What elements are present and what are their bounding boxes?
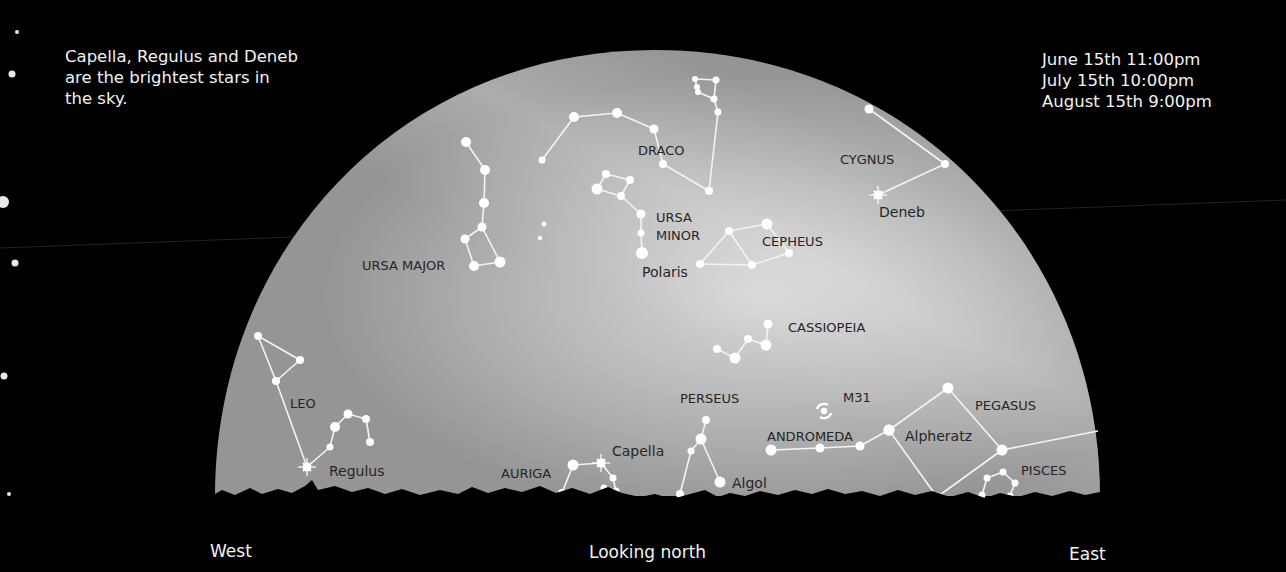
star-icon: [725, 227, 733, 235]
star-icon: [362, 415, 370, 423]
direction-west: West: [210, 541, 252, 561]
star-icon: [330, 422, 340, 432]
star-icon: [865, 105, 874, 114]
star-icon: [695, 89, 701, 95]
star-icon: [696, 260, 704, 268]
star-icon: [568, 460, 579, 471]
star-icon: [12, 260, 19, 267]
star-icon: [9, 71, 16, 78]
star-icon: [366, 438, 374, 446]
constellation-label-pisces: PISCES: [1021, 463, 1066, 478]
star-icon: [637, 210, 646, 219]
star-icon: [748, 261, 756, 269]
constellation-label-draco: DRACO: [638, 143, 685, 158]
star-icon: [592, 184, 603, 195]
star-icon: [478, 223, 487, 232]
star-icon: [764, 320, 773, 329]
time-line: July 15th 10:00pm: [1042, 70, 1212, 91]
star-icon: [272, 377, 280, 385]
star-icon: [479, 198, 489, 208]
star-icon: [602, 170, 610, 178]
star-icon: [694, 84, 700, 90]
direction-looking-north: Looking north: [589, 542, 706, 562]
note-line: Capella, Regulus and Deneb: [65, 46, 298, 67]
star-icon: [15, 30, 19, 34]
star-icon: [713, 345, 721, 353]
star-icon: [7, 492, 11, 496]
note-line: are the brightest stars in: [65, 67, 298, 88]
star-icon: [344, 410, 353, 419]
constellation-label-ursa-minor: URSA: [656, 210, 692, 225]
constellation-label-pegasus: PEGASUS: [975, 398, 1036, 413]
constellation-label-perseus: PERSEUS: [680, 391, 739, 406]
constellation-label-ursa-minor: MINOR: [656, 228, 700, 243]
star-icon: [461, 137, 471, 147]
star-icon: [327, 444, 334, 451]
star-icon: [539, 157, 546, 164]
star-icon: [943, 383, 954, 394]
star-icon: [610, 475, 617, 482]
star-icon: [495, 257, 506, 268]
star-icon: [638, 230, 645, 237]
star-icon: [713, 77, 720, 84]
star-icon: [856, 442, 865, 451]
dso-label-m31: M31: [843, 390, 871, 405]
star-icon: [762, 219, 773, 230]
star-icon: [617, 192, 625, 200]
star-icon: [659, 160, 667, 168]
star-icon: [692, 76, 698, 82]
star-label-polaris: Polaris: [642, 264, 688, 280]
constellation-label-cygnus: CYGNUS: [840, 152, 894, 167]
star-label-algol: Algol: [732, 475, 767, 491]
star-icon: [650, 125, 659, 134]
star-icon: [1000, 469, 1007, 476]
star-icon: [715, 109, 722, 116]
star-label-regulus: Regulus: [329, 463, 385, 479]
star-icon: [715, 477, 726, 488]
constellation-line: [700, 264, 752, 265]
star-icon: [612, 108, 622, 118]
star-icon: [884, 425, 895, 436]
time-line: June 15th 11:00pm: [1042, 49, 1212, 70]
star-label-deneb: Deneb: [879, 204, 925, 220]
star-icon: [705, 187, 713, 195]
note-line: the sky.: [65, 88, 298, 109]
time-line: August 15th 9:00pm: [1042, 91, 1212, 112]
star-icon: [538, 236, 542, 240]
direction-east: East: [1069, 544, 1106, 564]
star-icon: [711, 96, 718, 103]
star-icon: [636, 247, 648, 259]
star-icon: [626, 176, 634, 184]
star-icon: [461, 235, 470, 244]
star-icon: [702, 416, 710, 424]
star-icon: [730, 353, 741, 364]
star-icon: [254, 332, 262, 340]
star-icon: [688, 448, 695, 455]
star-icon: [761, 340, 772, 351]
constellation-label-andromeda: ANDROMEDA: [767, 429, 853, 444]
star-icon: [1012, 480, 1019, 487]
constellation-label-leo: LEO: [290, 396, 316, 411]
constellation-label-ursa-major: URSA MAJOR: [362, 258, 445, 273]
star-icon: [480, 165, 490, 175]
star-icon: [785, 249, 793, 257]
star-icon: [984, 475, 991, 482]
constellation-label-cepheus: CEPHEUS: [762, 234, 823, 249]
star-icon: [816, 444, 825, 453]
star-icon: [744, 335, 752, 343]
brightest-stars-note: Capella, Regulus and Deneb are the brigh…: [65, 46, 298, 109]
star-icon: [696, 434, 707, 445]
star-icon: [569, 112, 579, 122]
star-icon: [469, 261, 479, 271]
constellation-label-cassiopeia: CASSIOPEIA: [788, 320, 865, 335]
star-icon: [542, 222, 547, 227]
star-icon: [997, 445, 1008, 456]
star-label-capella: Capella: [612, 443, 664, 459]
star-icon: [1, 373, 8, 380]
star-icon: [296, 356, 304, 364]
star-icon: [941, 160, 949, 168]
viewing-times: June 15th 11:00pm July 15th 10:00pm Augu…: [1042, 49, 1212, 112]
star-label-alpheratz: Alpheratz: [905, 428, 972, 444]
constellation-label-auriga: AURIGA: [501, 466, 551, 481]
star-icon: [766, 445, 777, 456]
